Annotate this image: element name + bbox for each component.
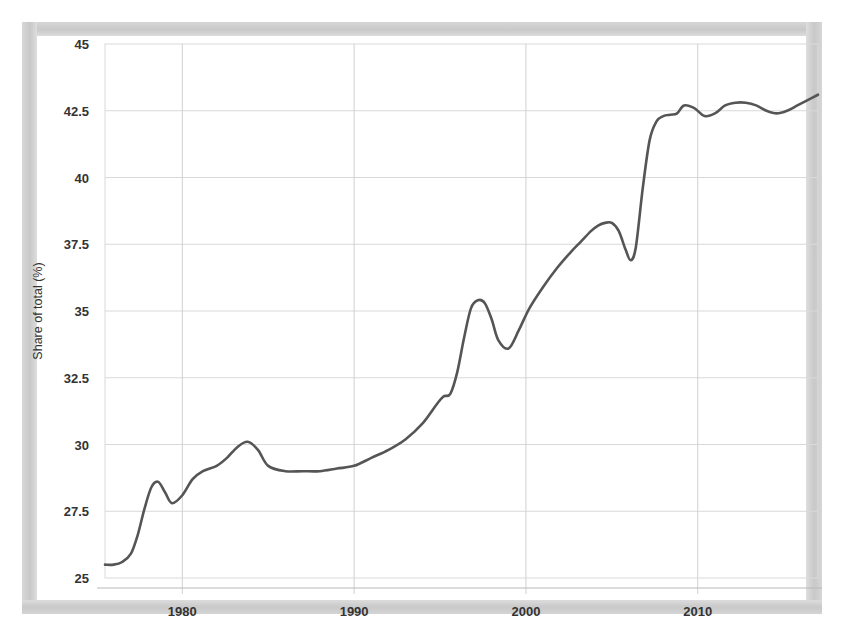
data-series-line [105,95,818,565]
x-axis-tick-labels: 1980199020002010 [168,604,712,619]
y-tick-label: 35 [75,304,89,319]
y-tick-label: 45 [75,37,89,52]
y-tick-label: 32.5 [64,371,89,386]
y-axis-title: Share of total (%) [31,262,45,359]
y-axis-tick-labels: 2527.53032.53537.54042.545 [64,37,89,586]
chart-canvas: 2527.53032.53537.54042.545 1980199020002… [0,0,841,643]
y-tick-label: 40 [75,171,89,186]
y-tick-label: 27.5 [64,504,89,519]
line-chart: 2527.53032.53537.54042.545 1980199020002… [0,0,841,643]
y-tick-label: 25 [75,571,89,586]
y-tick-label: 42.5 [64,104,89,119]
x-tick-label: 1990 [340,604,369,619]
x-tick-label: 1980 [168,604,197,619]
y-tick-label: 30 [75,438,89,453]
x-tick-label: 2000 [511,604,540,619]
x-tick-label: 2010 [683,604,712,619]
y-tick-label: 37.5 [64,237,89,252]
chart-page: 2527.53032.53537.54042.545 1980199020002… [0,0,841,643]
horizontal-gridlines [105,111,818,512]
